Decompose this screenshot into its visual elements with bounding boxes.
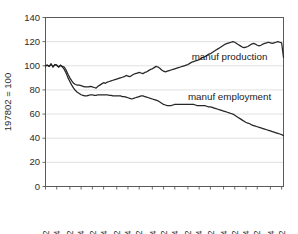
plot-frame: [46, 18, 284, 187]
x-axis-tick-label: 2003 4: [241, 230, 251, 234]
x-axis-tick-label: 2005 2: [252, 230, 262, 234]
series-line-manuf-production: [46, 42, 284, 88]
chart-container: 020406080100120140 1978 21979 41981 2198…: [0, 0, 298, 234]
y-axis-tick-label: 140: [24, 12, 40, 23]
x-axis-tick-label: 1993 2: [159, 230, 169, 234]
y-axis-title: 197802 = 100: [2, 73, 13, 131]
x-axis-tick-label: 1984 2: [88, 230, 98, 234]
x-axis-tick-label: 2008 2: [277, 230, 287, 234]
x-axis-tick-label: 1987 2: [112, 230, 122, 234]
x-axis-tick-label: 1994 4: [170, 230, 180, 234]
x-axis-tick-label: 1990 2: [134, 230, 144, 234]
y-axis-tick-label: 120: [24, 36, 40, 47]
x-axis-tick-label: 2006 4: [266, 230, 276, 234]
x-axis-tick-label: 1996 2: [183, 230, 193, 234]
x-axis-tick-label: 1999 2: [206, 230, 216, 234]
y-axis-tick-label: 80: [29, 84, 40, 95]
x-axis-tick-label: 1985 4: [99, 230, 109, 234]
x-axis-tick-label: 1991 4: [148, 230, 158, 234]
x-axis-tick-label: 1982 4: [76, 230, 86, 234]
x-axis-tick-labels: 1978 21979 41981 21982 41984 21985 41987…: [41, 230, 287, 234]
series-annotations: manuf productionmanuf employment: [188, 51, 272, 102]
y-axis-tick-labels: 020406080100120140: [24, 12, 40, 192]
x-axis-tick-label: 2002 2: [230, 230, 240, 234]
y-axis-tick-label: 40: [29, 132, 40, 143]
y-axis-tick-label: 60: [29, 108, 40, 119]
x-axis-tick-label: 2000 4: [219, 230, 229, 234]
x-axis-tick-label: 1981 2: [65, 230, 75, 234]
y-axis-tick-label: 20: [29, 156, 40, 167]
series-annotation-label: manuf employment: [188, 91, 272, 102]
x-axis-tick-label: 1978 2: [41, 230, 51, 234]
x-axis-tick-label: 1988 4: [123, 230, 133, 234]
y-axis-tick-label: 100: [24, 60, 40, 71]
y-axis-tick-label: 0: [35, 181, 40, 192]
manufacturing-production-employment-line-chart: 020406080100120140 1978 21979 41981 2198…: [0, 0, 298, 234]
x-axis-tick-label: 1997 4: [194, 230, 204, 234]
x-axis-tick-label: 1979 4: [52, 230, 62, 234]
series-annotation-label: manuf production: [192, 51, 268, 62]
